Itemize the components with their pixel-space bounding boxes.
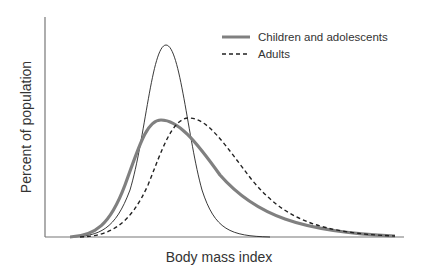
legend-label-children: Children and adolescents xyxy=(258,31,388,43)
chart: Children and adolescents Adults Body mas… xyxy=(0,0,424,276)
curve-children-adolescents xyxy=(70,120,395,237)
legend-label-adults: Adults xyxy=(258,48,290,60)
y-axis-label: Percent of population xyxy=(18,61,34,193)
legend: Children and adolescents Adults xyxy=(222,31,388,60)
x-axis-label: Body mass index xyxy=(166,249,273,265)
curve-normal-reference xyxy=(70,45,270,237)
